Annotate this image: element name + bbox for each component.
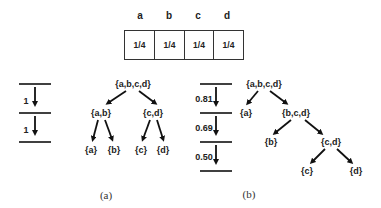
tree-a-leaf-a: {a}: [85, 146, 97, 155]
tree-a-node-ab: {a,b}: [91, 109, 111, 118]
scale-a-step-1: 1: [23, 97, 28, 106]
table-cell-c: 1/4: [185, 31, 213, 59]
scale-a-step-2: 1: [23, 126, 28, 135]
tree-a-leaf-b: {b}: [108, 146, 121, 155]
scale-b-step-2: 0.69: [195, 124, 213, 133]
tree-a-node-cd: {c,d}: [143, 109, 163, 118]
tree-b-leaf-d: {d}: [350, 167, 363, 176]
caption-b: (b): [243, 188, 256, 200]
table-cell-b: 1/4: [155, 31, 184, 59]
scale-b-step-1: 0.81: [195, 95, 213, 104]
tree-a-root: {a,b,c,d}: [115, 80, 151, 89]
tree-a-leaf-c: {c}: [135, 146, 147, 155]
tree-b-node-bcd: {b,c,d}: [282, 109, 310, 118]
scale-b-step-3: 0.50: [195, 153, 213, 162]
tree-b-leaf-c: {c}: [301, 167, 313, 176]
table-cell-a: 1/4: [125, 31, 154, 59]
tree-a-leaf-d: {d}: [157, 146, 170, 155]
tree-b-leaf-b: {b}: [265, 138, 278, 147]
table-header-c: c: [195, 11, 201, 21]
table-cell-d: 1/4: [214, 31, 243, 59]
tree-b-root: {a,b,c,d}: [246, 80, 282, 89]
tree-b-node-cd: {c,d}: [321, 138, 341, 147]
caption-a: (a): [100, 189, 112, 201]
tree-b-leaf-a: {a}: [240, 109, 252, 118]
tree-b-edges: [248, 91, 351, 162]
table-header-d: d: [224, 11, 230, 21]
table-header-b: b: [166, 11, 172, 21]
table-header-a: a: [137, 11, 143, 21]
